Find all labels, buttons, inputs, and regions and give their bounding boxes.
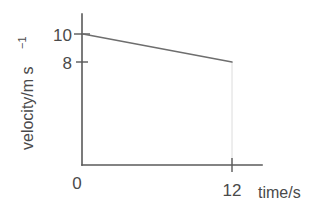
velocity-series-line xyxy=(83,34,232,62)
y-tick-label-10: 10 xyxy=(53,26,72,45)
chart-canvas: 10 8 0 12 time/s velocity/m s −1 xyxy=(0,0,324,213)
y-axis-title-group: velocity/m s −1 xyxy=(16,36,36,150)
velocity-time-graph-figure: 10 8 0 12 time/s velocity/m s −1 xyxy=(0,0,324,213)
x-tick-label-12: 12 xyxy=(223,181,242,200)
y-axis-title-superscript: −1 xyxy=(16,36,28,49)
x-axis-title: time/s xyxy=(258,184,301,201)
origin-label-0: 0 xyxy=(72,174,81,193)
y-tick-label-8: 8 xyxy=(63,54,72,73)
y-axis-title: velocity/m s xyxy=(19,66,36,150)
